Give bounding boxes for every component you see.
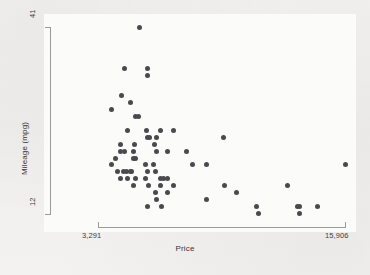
data-point xyxy=(131,149,136,154)
y-axis-tick-label-max: 41 xyxy=(28,9,37,18)
data-point xyxy=(159,204,164,209)
data-point xyxy=(285,183,290,188)
data-point xyxy=(153,190,158,195)
data-point xyxy=(154,197,159,202)
x-axis-title: Price xyxy=(0,244,370,253)
data-point xyxy=(115,169,120,174)
data-point xyxy=(118,142,123,147)
data-point xyxy=(125,128,130,133)
data-point xyxy=(315,204,320,209)
data-point xyxy=(184,149,189,154)
data-point xyxy=(221,135,226,140)
data-point xyxy=(144,128,149,133)
data-point xyxy=(165,190,170,195)
data-point xyxy=(165,176,170,181)
data-point xyxy=(145,73,150,78)
data-point xyxy=(171,128,176,133)
data-point xyxy=(153,169,158,174)
data-point xyxy=(147,135,152,140)
y-axis-tick-label-min: 12 xyxy=(28,197,37,206)
data-point xyxy=(154,135,159,140)
data-point xyxy=(256,211,261,216)
data-point xyxy=(109,107,114,112)
data-point xyxy=(297,211,302,216)
data-point xyxy=(204,197,209,202)
data-point xyxy=(190,162,195,167)
data-point xyxy=(131,183,136,188)
data-point xyxy=(132,142,137,147)
data-point xyxy=(158,183,163,188)
data-point xyxy=(222,183,227,188)
data-point xyxy=(129,169,134,174)
y-axis-title: Mileage (mpg) xyxy=(20,122,29,175)
data-point xyxy=(145,66,150,71)
data-point xyxy=(113,156,118,161)
data-point xyxy=(234,190,239,195)
data-point xyxy=(136,114,141,119)
data-point xyxy=(154,149,159,154)
y-axis-line xyxy=(50,27,51,215)
x-axis-tick-label-min: 3,291 xyxy=(82,231,101,240)
data-point xyxy=(297,204,302,209)
data-point xyxy=(137,25,142,30)
data-point xyxy=(118,176,123,181)
data-point xyxy=(254,204,259,209)
data-point xyxy=(128,100,133,105)
data-point xyxy=(119,93,124,98)
x-axis-tick-max xyxy=(345,222,346,228)
data-point xyxy=(152,142,157,147)
data-point xyxy=(122,149,127,154)
data-point xyxy=(133,176,138,181)
scatter-plot-screenshot: 41 12 Mileage (mpg) 3,291 15,906 Price xyxy=(0,0,370,275)
x-axis-line xyxy=(98,227,346,228)
data-point xyxy=(109,162,114,167)
x-axis-tick-label-max: 15,906 xyxy=(325,231,349,240)
data-point xyxy=(204,162,209,167)
data-point xyxy=(145,204,150,209)
data-point xyxy=(125,176,130,181)
data-point xyxy=(165,149,170,154)
data-point xyxy=(143,176,148,181)
y-axis-tick-max xyxy=(45,27,51,28)
data-point xyxy=(158,128,163,133)
data-point xyxy=(146,183,151,188)
data-point xyxy=(171,183,176,188)
data-point xyxy=(133,156,138,161)
y-axis-tick-min xyxy=(45,214,51,215)
plot-area xyxy=(98,27,345,227)
data-point xyxy=(143,162,148,167)
data-point xyxy=(145,169,150,174)
data-point xyxy=(151,162,156,167)
data-point xyxy=(122,66,127,71)
